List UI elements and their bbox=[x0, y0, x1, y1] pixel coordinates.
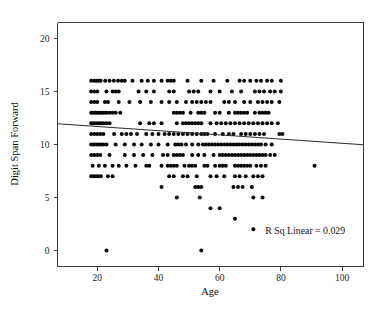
data-point bbox=[256, 100, 260, 104]
data-point bbox=[254, 79, 258, 83]
data-point bbox=[277, 100, 281, 104]
data-point bbox=[184, 143, 188, 147]
data-point bbox=[253, 132, 257, 136]
data-point bbox=[160, 100, 164, 104]
data-point bbox=[270, 143, 274, 147]
data-point bbox=[112, 132, 116, 136]
data-point bbox=[196, 153, 200, 157]
data-point bbox=[273, 153, 277, 157]
x-axis-tick-label: 60 bbox=[215, 273, 225, 283]
data-point bbox=[205, 164, 209, 168]
data-point bbox=[117, 89, 121, 93]
data-point bbox=[99, 174, 103, 178]
data-point bbox=[239, 132, 243, 136]
scatter-plot-figure: 05101520 20406080100 R Sq Linear = 0.029… bbox=[0, 0, 377, 310]
x-axis: 20406080100 bbox=[93, 267, 350, 283]
data-point bbox=[104, 143, 108, 147]
data-point bbox=[199, 185, 203, 189]
data-point bbox=[134, 164, 138, 168]
data-point bbox=[247, 121, 251, 125]
data-point bbox=[149, 143, 153, 147]
data-point bbox=[259, 79, 263, 83]
plot-canvas: 05101520 20406080100 R Sq Linear = 0.029… bbox=[0, 0, 377, 310]
data-point bbox=[146, 79, 150, 83]
data-point bbox=[130, 79, 134, 83]
data-point bbox=[251, 121, 255, 125]
x-axis-tick-label: 40 bbox=[154, 273, 164, 283]
data-point bbox=[99, 79, 103, 83]
data-point bbox=[213, 111, 217, 115]
data-point bbox=[212, 79, 216, 83]
data-point bbox=[160, 79, 164, 83]
y-axis-tick-label: 0 bbox=[45, 246, 50, 256]
data-point bbox=[187, 89, 191, 93]
data-point bbox=[123, 143, 127, 147]
data-point bbox=[111, 164, 115, 168]
data-point bbox=[199, 249, 203, 253]
data-point bbox=[175, 164, 179, 168]
data-point bbox=[111, 174, 115, 178]
data-point bbox=[209, 121, 213, 125]
data-point bbox=[270, 79, 274, 83]
data-point bbox=[181, 153, 185, 157]
data-point bbox=[144, 89, 148, 93]
data-point bbox=[261, 196, 265, 200]
data-point bbox=[160, 121, 164, 125]
x-axis-tick-label: 80 bbox=[276, 273, 286, 283]
data-point bbox=[267, 111, 271, 115]
data-point bbox=[152, 121, 156, 125]
data-point bbox=[251, 227, 255, 231]
data-point bbox=[135, 132, 139, 136]
data-point bbox=[273, 89, 277, 93]
data-point bbox=[276, 121, 280, 125]
data-point bbox=[160, 164, 164, 168]
data-point bbox=[192, 89, 196, 93]
data-point bbox=[175, 100, 179, 104]
data-point bbox=[261, 100, 265, 104]
data-point bbox=[172, 79, 176, 83]
data-point bbox=[257, 89, 261, 93]
data-point bbox=[245, 111, 249, 115]
data-point bbox=[244, 174, 248, 178]
data-point bbox=[265, 121, 269, 125]
data-point bbox=[132, 153, 136, 157]
data-point bbox=[265, 79, 269, 83]
data-point bbox=[98, 153, 102, 157]
data-point bbox=[218, 111, 222, 115]
data-point bbox=[104, 249, 108, 253]
data-point bbox=[230, 89, 234, 93]
data-point bbox=[238, 121, 242, 125]
data-point bbox=[163, 132, 167, 136]
data-point bbox=[195, 100, 199, 104]
data-point bbox=[218, 206, 222, 210]
data-point bbox=[150, 153, 154, 157]
data-point bbox=[261, 174, 265, 178]
data-point bbox=[248, 164, 252, 168]
data-point bbox=[101, 132, 105, 136]
data-point bbox=[120, 132, 124, 136]
data-point bbox=[270, 100, 274, 104]
data-point bbox=[256, 174, 260, 178]
data-point bbox=[195, 174, 199, 178]
data-point bbox=[242, 100, 246, 104]
data-point bbox=[186, 79, 190, 83]
data-point bbox=[264, 143, 268, 147]
data-point bbox=[236, 185, 240, 189]
x-axis-title: Age bbox=[201, 286, 219, 297]
data-point bbox=[212, 153, 216, 157]
data-point bbox=[175, 196, 179, 200]
data-point bbox=[117, 164, 121, 168]
data-point bbox=[231, 185, 235, 189]
data-point bbox=[198, 196, 202, 200]
data-point bbox=[190, 100, 194, 104]
data-point bbox=[253, 111, 257, 115]
data-point bbox=[138, 121, 142, 125]
data-point bbox=[313, 164, 317, 168]
data-point bbox=[242, 79, 246, 83]
data-point bbox=[213, 164, 217, 168]
data-point bbox=[106, 174, 110, 178]
data-point bbox=[150, 132, 154, 136]
data-point bbox=[104, 89, 108, 93]
data-point bbox=[233, 100, 237, 104]
data-point bbox=[95, 100, 99, 104]
